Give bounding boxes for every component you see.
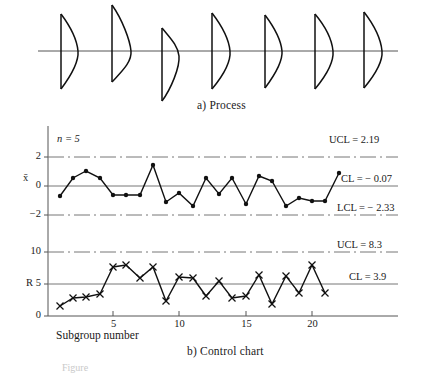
- r-data-markers: [57, 262, 329, 310]
- sample-size-text: n = 5: [57, 133, 80, 144]
- xtick-label-10: 10: [172, 318, 187, 329]
- r-subchart: [44, 252, 398, 316]
- r-ucl-label: UCL = 8.3: [337, 239, 382, 250]
- process-curve-3: [162, 28, 179, 101]
- r-ytick-label-10: 10: [16, 245, 41, 256]
- process-panel: [38, 5, 398, 101]
- xtick-label-5: 5: [108, 318, 119, 329]
- panel-a-caption: a) Process: [197, 99, 246, 111]
- xbar-ytick-label-0: 0: [20, 179, 41, 190]
- r-ytick-label-0: 0: [20, 309, 41, 320]
- xtick-label-15: 15: [239, 318, 254, 329]
- xtick-label-20: 20: [305, 318, 320, 329]
- r-data-line: [60, 265, 325, 306]
- process-curve-2: [112, 5, 131, 82]
- process-curve-7: [364, 12, 382, 88]
- xbar-cl-label: CL = − 0.07: [341, 173, 392, 184]
- xbar-ytick-label-neg2: −2: [16, 208, 41, 219]
- figure-footer-text: Figure: [62, 362, 88, 373]
- figure-container: a) Process n = 5 x̄ R 2 0 −2 10 5 0 5 10…: [0, 0, 428, 373]
- xbar-ucl-label: UCL = 2.19: [329, 134, 379, 145]
- sample-size-label: n = 5: [57, 133, 80, 144]
- xbar-ytick-label-2: 2: [20, 150, 41, 161]
- xbar-lcl-label: LCL = − 2.33: [337, 202, 395, 213]
- r-ytick-label-5: 5: [20, 277, 41, 288]
- x-axis-title: Subgroup number: [56, 329, 139, 341]
- control-chart-panel: [44, 126, 398, 316]
- r-cl-label: CL = 3.9: [349, 271, 386, 282]
- panel-b-caption: b) Control chart: [187, 345, 264, 357]
- figure-graphics: [0, 0, 428, 373]
